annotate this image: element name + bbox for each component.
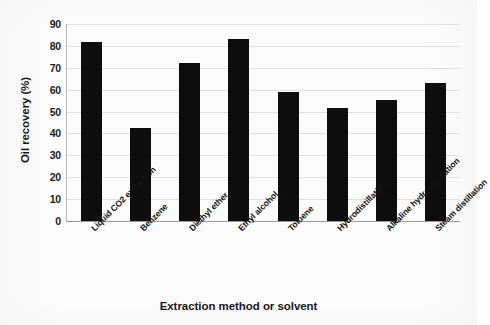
bar: [278, 92, 299, 221]
bar-slot: [313, 24, 362, 221]
y-axis-title: Oil recovery (%): [14, 0, 36, 240]
x-tick-slot: Steam distillation: [411, 223, 460, 295]
y-axis-title-text: Oil recovery (%): [19, 77, 31, 163]
y-axis-tick-label: 40: [50, 127, 61, 139]
y-axis-tick-label: 60: [50, 84, 61, 96]
y-axis-tick-label: 90: [50, 18, 61, 30]
bar: [327, 108, 348, 221]
bar: [425, 83, 446, 221]
x-axis-title: Extraction method or solvent: [0, 300, 477, 312]
y-axis-tick-label: 10: [50, 193, 61, 205]
x-tick-slot: Alkaline hydrodistillation: [362, 223, 411, 295]
x-tick-slot: Benzene: [115, 223, 164, 295]
y-axis-tick-label: 30: [50, 149, 61, 161]
y-axis-tick-label: 70: [50, 62, 61, 74]
bar-slot: [165, 24, 214, 221]
bar: [228, 39, 249, 221]
y-axis-tick-label: 20: [50, 171, 61, 183]
x-tick-slot: Diethyl ether: [165, 223, 214, 295]
bar: [179, 63, 200, 221]
bar: [81, 42, 102, 221]
x-tick-slot: Hydrodistillation: [312, 223, 361, 295]
bar-slot: [67, 24, 116, 221]
y-axis-tick-label: 0: [55, 215, 61, 227]
y-axis-tick-label: 80: [50, 40, 61, 52]
x-axis-tick-labels: Liquid CO2 extractionBenzeneDiethyl ethe…: [66, 223, 460, 295]
y-axis-tick-label: 50: [50, 106, 61, 118]
bar: [376, 100, 397, 221]
x-tick-slot: Ethyl alcohol: [214, 223, 263, 295]
x-tick-slot: Toluene: [263, 223, 312, 295]
x-tick-slot: Liquid CO2 extraction: [66, 223, 115, 295]
